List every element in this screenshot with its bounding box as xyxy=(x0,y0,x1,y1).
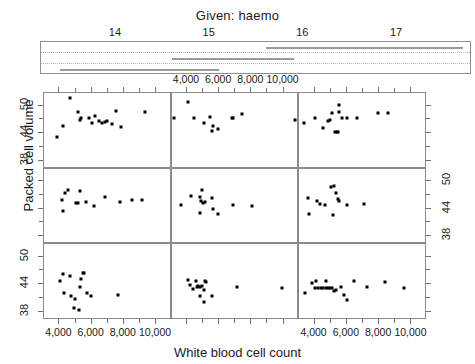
data-point xyxy=(172,117,175,120)
y-tick-left xyxy=(38,311,43,312)
data-point xyxy=(335,191,338,194)
y-tick-minor-left xyxy=(39,297,43,298)
data-point xyxy=(92,204,95,207)
data-point xyxy=(204,201,207,204)
x-tick-top xyxy=(378,87,379,92)
data-point xyxy=(210,196,213,199)
x-tick-bottom xyxy=(314,319,315,324)
y-tick-label-left: 38 xyxy=(18,297,30,323)
data-point xyxy=(131,199,134,202)
scatter-panel xyxy=(298,92,426,168)
data-point xyxy=(209,116,212,119)
data-point xyxy=(241,112,244,115)
x-tick-minor-top xyxy=(394,88,395,92)
x-tick-label-top: 6,000 xyxy=(205,73,231,85)
data-point xyxy=(302,122,305,125)
data-point xyxy=(377,111,380,114)
x-tick-label-bottom: 4,000 xyxy=(300,326,326,338)
y-tick-minor-left xyxy=(39,194,43,195)
data-point xyxy=(202,289,205,292)
data-point xyxy=(303,292,306,295)
y-tick-right xyxy=(426,160,431,161)
data-point xyxy=(79,190,82,193)
x-tick-minor-top xyxy=(362,88,363,92)
y-tick-label-right: 50 xyxy=(440,166,452,192)
y-tick-right xyxy=(426,132,431,133)
x-tick-minor-bottom xyxy=(139,319,140,323)
x-tick-bottom xyxy=(283,319,284,324)
x-tick-top xyxy=(155,87,156,92)
x-tick-bottom xyxy=(123,319,124,324)
data-point xyxy=(105,120,108,123)
x-tick-top xyxy=(346,87,347,92)
data-point xyxy=(180,204,183,207)
data-point xyxy=(83,271,86,274)
x-tick-label-top: 8,000 xyxy=(237,73,263,85)
data-point xyxy=(231,204,234,207)
y-tick-minor-right xyxy=(426,221,430,222)
y-tick-left xyxy=(38,132,43,133)
scatter-panel xyxy=(171,168,299,243)
data-point xyxy=(325,280,328,283)
x-tick-minor-top xyxy=(266,88,267,92)
y-tick-minor-right xyxy=(426,146,430,147)
data-point xyxy=(343,293,346,296)
x-tick-minor-bottom xyxy=(234,319,235,323)
data-point xyxy=(193,116,196,119)
data-point xyxy=(331,112,334,115)
x-tick-minor-bottom xyxy=(330,319,331,323)
y-tick-left xyxy=(38,208,43,209)
x-tick-minor-bottom xyxy=(394,319,395,323)
data-point xyxy=(205,280,208,283)
y-tick-minor-right xyxy=(426,269,430,270)
data-point xyxy=(328,119,331,122)
data-point xyxy=(67,188,70,191)
data-point xyxy=(120,126,123,129)
data-point xyxy=(62,124,65,127)
data-point xyxy=(201,285,204,288)
data-point xyxy=(199,211,202,214)
x-tick-top xyxy=(250,87,251,92)
y-axis-title: Packed cell volume xyxy=(21,66,36,246)
x-tick-minor-top xyxy=(139,88,140,92)
data-point xyxy=(76,202,79,205)
data-point xyxy=(118,201,121,204)
data-point xyxy=(62,273,65,276)
data-point xyxy=(337,104,340,107)
data-point xyxy=(314,116,317,119)
data-point xyxy=(217,127,220,130)
y-tick-minor-right xyxy=(426,118,430,119)
data-point xyxy=(340,285,343,288)
data-point xyxy=(403,286,406,289)
x-tick-minor-top xyxy=(202,88,203,92)
x-tick-label-top: 10,000 xyxy=(266,73,298,85)
scatter-panel xyxy=(43,92,171,168)
data-point xyxy=(362,203,365,206)
data-point xyxy=(345,298,348,301)
y-tick-minor-left xyxy=(39,146,43,147)
data-point xyxy=(115,109,118,112)
data-point xyxy=(340,116,343,119)
data-point xyxy=(211,125,214,128)
data-point xyxy=(199,294,202,297)
data-point xyxy=(365,285,368,288)
data-point xyxy=(250,204,253,207)
x-tick-top xyxy=(123,87,124,92)
data-point xyxy=(192,288,195,291)
y-tick-left xyxy=(38,180,43,181)
x-tick-minor-bottom xyxy=(107,319,108,323)
y-tick-left xyxy=(38,256,43,257)
data-point xyxy=(332,185,335,188)
data-point xyxy=(110,122,113,125)
y-tick-minor-right xyxy=(426,297,430,298)
data-point xyxy=(331,213,334,216)
y-tick-left xyxy=(38,283,43,284)
y-tick-label-left: 44 xyxy=(18,269,30,295)
data-point xyxy=(336,131,339,134)
x-tick-bottom xyxy=(346,319,347,324)
data-point xyxy=(80,277,83,280)
data-point xyxy=(144,110,147,113)
data-point xyxy=(210,129,213,132)
data-point xyxy=(63,291,66,294)
data-point xyxy=(90,294,93,297)
